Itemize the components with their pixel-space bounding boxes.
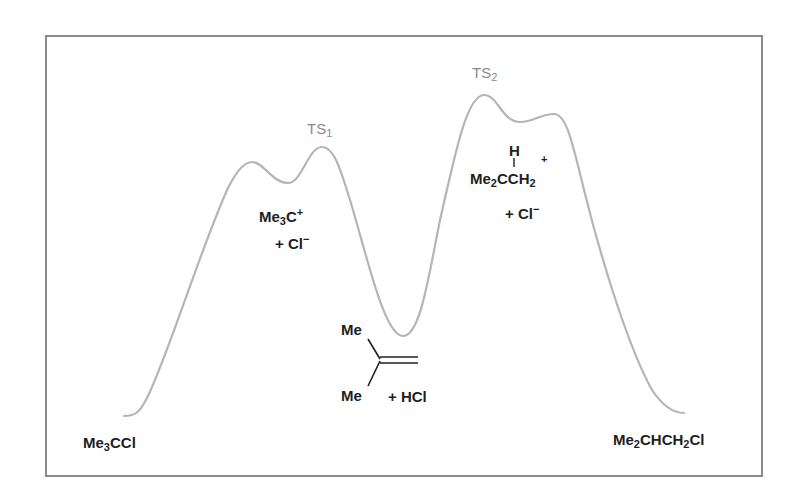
text-part: CHCH [640, 431, 683, 448]
text-part: Me [259, 208, 280, 225]
carbocation2-label: Me2CCH2 [470, 171, 536, 186]
ts2-text: TS [472, 64, 491, 81]
product-label: Me2CHCH2Cl [613, 432, 704, 447]
ts1-subscript: 1 [326, 127, 332, 139]
text-part: + Cl [275, 235, 303, 252]
subscript: 2 [529, 177, 535, 189]
text-part: Me [470, 170, 491, 187]
ts1-label: TS1 [307, 121, 332, 136]
text-part: Cl [689, 431, 704, 448]
carbocation2-h-label: H [509, 143, 520, 158]
ts2-label: TS2 [472, 65, 497, 80]
charge-superscript: + [297, 206, 303, 218]
alkene-bond-top [368, 339, 380, 359]
ts2-subscript: 2 [491, 71, 497, 83]
reactant-label: Me3CCl [83, 435, 136, 450]
alkene-bottom-me: Me [341, 388, 362, 403]
text-part: Me [83, 434, 104, 451]
charge-superscript: − [533, 203, 539, 215]
alkene-top-me: Me [341, 322, 362, 337]
ts1-text: TS [307, 120, 326, 137]
chloride1-label: + Cl− [275, 236, 309, 251]
energy-curve [124, 95, 684, 416]
alkene-bond-bottom [368, 361, 380, 386]
carbocation1-label: Me3C+ [259, 209, 303, 224]
energy-profile-diagram [0, 0, 800, 503]
text-part: CCH [497, 170, 530, 187]
chloride2-label: + Cl− [505, 206, 539, 221]
hcl-label: + HCl [388, 389, 427, 404]
charge-superscript: − [303, 233, 309, 245]
carbocation2-charge: + [541, 153, 547, 165]
text-part: CCl [110, 434, 136, 451]
text-part: Me [613, 431, 634, 448]
text-part: C [286, 208, 297, 225]
text-part: + Cl [505, 205, 533, 222]
